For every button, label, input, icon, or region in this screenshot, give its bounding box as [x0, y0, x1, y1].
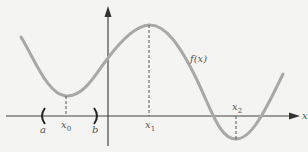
label-x1-sub: 1: [151, 125, 155, 133]
label-x0: x0: [61, 120, 71, 133]
function-label: f(x): [190, 54, 207, 64]
x-axis-label: x: [302, 111, 308, 121]
y-axis-arrow-icon: [105, 6, 112, 17]
label-a: a: [40, 125, 46, 135]
label-x2-sub: 2: [238, 107, 242, 115]
function-diagram: a x0 b x1 x2 f(x) x: [0, 0, 308, 152]
label-x1: x1: [145, 120, 155, 133]
x-axis-arrow-icon: [289, 113, 300, 120]
label-x0-sub: 0: [67, 125, 71, 133]
label-x2: x2: [232, 102, 242, 115]
label-b: b: [92, 125, 98, 135]
